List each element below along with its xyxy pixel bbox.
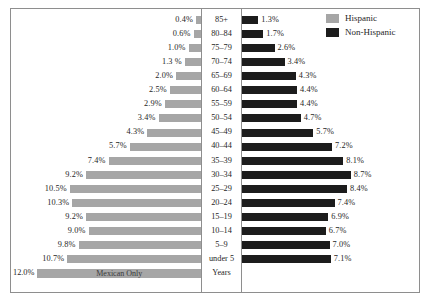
non-hispanic-value-label: 6.9% [331,213,349,221]
non-hispanic-value-label: 7.2% [335,142,353,150]
non-hispanic-bar [242,157,343,165]
non-hispanic-value-label: 7.0% [333,241,351,249]
hispanic-value-label: 2.0% [155,72,173,80]
hispanic-value-label: 9.2% [65,171,83,179]
hispanic-bar [86,171,201,179]
age-group-label: 65–69 [211,72,232,80]
legend-swatch-hispanic [326,14,339,23]
non-hispanic-bar [242,58,285,66]
hispanic-value-label: 10.3% [47,199,69,207]
hispanic-bar [130,143,201,151]
pyramid-row: 4.3%45–495.7% [11,126,419,140]
pyramid-row: 2.5%60–644.4% [11,84,419,98]
row-left-hispanic: 0.4% [11,13,201,27]
population-pyramid-chart: 0.4%85+1.3%0.6%80–841.7%1.0%75–792.6%1.3… [0,0,433,300]
non-hispanic-value-label: 3.4% [288,58,306,66]
age-group-label: 85+ [215,16,228,24]
non-hispanic-value-label: 4.4% [300,86,318,94]
legend-item-non-hispanic: Non-Hispanic [326,28,396,37]
pyramid-row: 10.3%20–247.4% [11,196,419,210]
age-group-cell: 15–19 [202,210,241,224]
hispanic-value-label: 9.2% [65,213,83,221]
age-group-cell: 80–84 [202,27,241,41]
non-hispanic-value-label: 2.6% [278,44,296,52]
hispanic-value-label: 0.4% [175,16,193,24]
non-hispanic-bar [242,44,275,52]
pyramid-row: 2.0%65–694.3% [11,69,419,83]
row-right-non-hispanic: 3.4% [242,55,419,69]
non-hispanic-bar [242,143,332,151]
age-group-label: 10–14 [211,227,232,235]
hispanic-bar [196,16,201,24]
age-group-label: 45–49 [211,128,232,136]
row-left-hispanic: 9.0% [11,225,201,239]
non-hispanic-bar [242,129,313,137]
legend-item-hispanic: Hispanic [326,14,396,23]
non-hispanic-value-label: 8.7% [354,171,372,179]
age-group-label: 60–64 [211,86,232,94]
non-hispanic-value-label: 6.7% [329,227,347,235]
row-right-non-hispanic: 6.7% [242,225,419,239]
hispanic-bar [170,86,201,94]
pyramid-row: 9.2%30–348.7% [11,168,419,182]
row-right-non-hispanic: 8.1% [242,154,419,168]
hispanic-value-label: 4.3% [127,128,145,136]
pyramid-row: 3.4%50–544.7% [11,112,419,126]
age-group-cell: 45–49 [202,126,241,140]
age-group-label: 25–29 [211,185,232,193]
legend-swatch-non-hispanic [326,28,339,37]
age-group-label: 50–54 [211,114,232,122]
age-group-cell: 40–44 [202,140,241,154]
row-left-hispanic: 0.6% [11,27,201,41]
age-group-cell: 50–54 [202,112,241,126]
row-right-non-hispanic: 4.3% [242,69,419,83]
hispanic-value-label: 2.5% [149,86,167,94]
row-left-hispanic: 4.3% [11,126,201,140]
row-right-non-hispanic: 8.7% [242,168,419,182]
non-hispanic-bar [242,100,297,108]
age-group-label: 80–84 [211,30,232,38]
age-group-label: 70–74 [211,58,232,66]
row-right-non-hispanic: 7.1% [242,253,419,267]
hispanic-bar [147,129,201,137]
age-group-label: 20–24 [211,199,232,207]
hispanic-bar [67,255,201,263]
hispanic-bar [89,227,202,235]
age-group-cell: 10–14 [202,225,241,239]
row-left-hispanic: 9.2% [11,168,201,182]
age-group-label: 35–39 [211,157,232,165]
pyramid-row: 2.9%55–594.4% [11,98,419,112]
age-group-cell: 85+ [202,13,241,27]
row-left-hispanic: 9.8% [11,239,201,253]
pyramid-row: 1.3 %70–743.4% [11,55,419,69]
row-left-hispanic: 9.2% [11,210,201,224]
row-right-non-hispanic: 2.6% [242,41,419,55]
hispanic-bar [159,114,202,122]
hispanic-bar [189,44,202,52]
scale-bar-caption: Mexican Only [37,270,201,278]
axis-label-cell: Years [202,267,241,281]
row-right-non-hispanic: 7.4% [242,196,419,210]
non-hispanic-value-label: 1.7% [266,30,284,38]
non-hispanic-value-label: 5.7% [316,128,334,136]
row-left-hispanic: 2.0% [11,69,201,83]
scale-left-cell: 12.0%Mexican Only [11,267,201,281]
hispanic-bar [194,30,202,38]
hispanic-bar [70,185,201,193]
scale-max-label: 12.0% [13,269,34,277]
non-hispanic-bar [242,16,258,24]
age-group-cell: 75–79 [202,41,241,55]
non-hispanic-bar [242,72,296,80]
hispanic-bar [72,199,201,207]
non-hispanic-value-label: 4.4% [300,100,318,108]
row-right-non-hispanic: 4.7% [242,112,419,126]
pyramid-row: 10.7%under 57.1% [11,253,419,267]
row-left-hispanic: 1.3 % [11,55,201,69]
age-group-cell: 5–9 [202,239,241,253]
hispanic-bar [185,58,201,66]
age-group-cell: 65–69 [202,69,241,83]
age-group-cell: 20–24 [202,196,241,210]
non-hispanic-value-label: 7.1% [334,255,352,263]
years-axis-label: Years [212,269,231,277]
non-hispanic-bar [242,241,330,249]
